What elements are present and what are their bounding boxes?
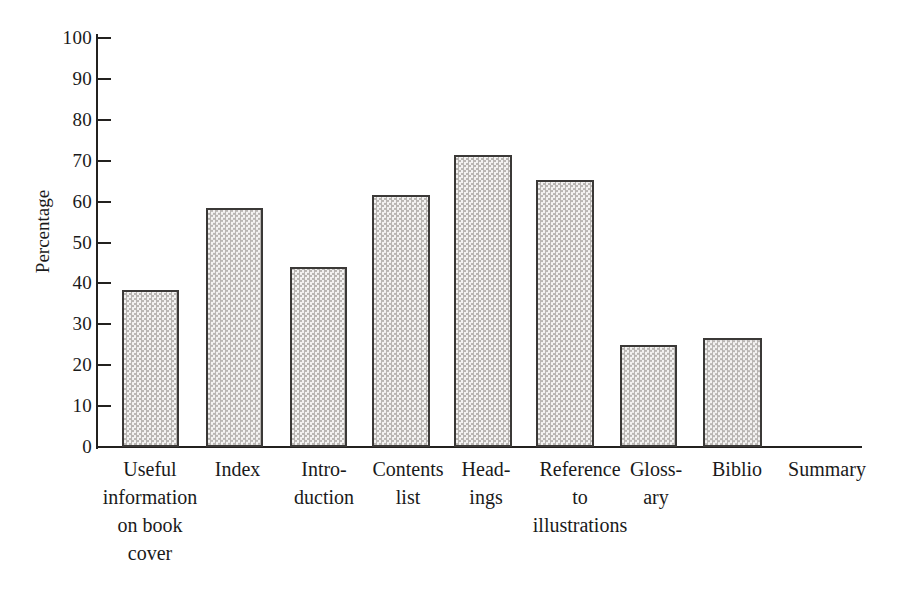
bar-chart-figure: Percentage 1009080706050403020100 Useful… [0,0,901,594]
y-axis-tick-label: 40 [46,273,92,292]
x-axis-category-label-line: ings [440,483,532,511]
x-axis-category-label-line: Index [190,455,285,483]
x-axis-category-label: Head-ings [440,455,532,511]
y-axis-tick-label-row: 30 [0,314,92,333]
y-axis-tick-label-row: 60 [0,192,92,211]
y-axis-tick-label-row: 70 [0,151,92,170]
y-axis-tick-label-row: 80 [0,110,92,129]
y-axis-tick-label: 90 [46,69,92,88]
x-axis-category-label-line: Gloss- [610,455,702,483]
bar [703,338,762,447]
y-axis-tick-label-row: 0 [0,437,92,456]
y-axis-tick-label: 20 [46,355,92,374]
x-axis-category-label-line: Useful [95,455,205,483]
y-axis-tick-label-row: 100 [0,28,92,47]
bar [122,290,179,447]
y-axis-tick-label-row: 50 [0,233,92,252]
x-axis-category-label-line: Biblio [692,455,782,483]
y-axis-tick-label: 80 [46,110,92,129]
y-axis-tick-label: 10 [46,396,92,415]
x-axis-category-label: Usefulinformationon bookcover [95,455,205,567]
bar [206,208,263,447]
bar [454,155,512,447]
x-axis-category-label-line: cover [95,539,205,567]
y-axis-tick-label: 0 [46,437,92,456]
y-axis-tick-label: 70 [46,151,92,170]
y-axis-tick-label: 30 [46,314,92,333]
x-axis-category-label-line: on book [95,511,205,539]
bars-layer [97,38,862,447]
bar [536,180,594,447]
bar [620,345,677,447]
x-axis-category-label: Index [190,455,285,483]
bar [290,267,347,447]
y-axis-tick-label: 50 [46,233,92,252]
x-axis-category-label-line: illustrations [520,511,640,539]
x-axis-category-label-line: information [95,483,205,511]
x-axis-category-label-line: Head- [440,455,532,483]
x-axis-category-label: Biblio [692,455,782,483]
bar [372,195,430,447]
y-axis-tick-label-row: 90 [0,69,92,88]
y-axis-tick-label: 100 [46,28,92,47]
y-axis-tick-label: 60 [46,192,92,211]
x-axis-category-label: Summary [772,455,882,483]
x-axis-category-label: Gloss-ary [610,455,702,511]
y-axis-tick-label-row: 20 [0,355,92,374]
y-axis-tick-label-row: 10 [0,396,92,415]
x-axis-category-label-line: Summary [772,455,882,483]
y-axis-tick-label-row: 40 [0,273,92,292]
x-axis-category-label-line: ary [610,483,702,511]
